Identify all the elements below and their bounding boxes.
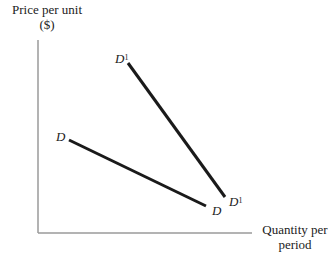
- demand-diagram: Price per unit ($) Quantity per period D…: [0, 0, 336, 256]
- curve-label-text: D: [56, 129, 65, 144]
- x-axis-label-line2: period: [254, 237, 336, 252]
- x-axis-label-line1: Quantity per: [254, 222, 336, 237]
- curve-label-d1-top: D1: [115, 52, 128, 66]
- demand-curve-d: [69, 140, 206, 206]
- y-axis-label-line2: ($): [2, 17, 92, 32]
- curve-label-sup: 1: [238, 196, 242, 205]
- y-axis-label: Price per unit ($): [2, 2, 92, 32]
- curve-label-d-left: D: [56, 130, 65, 144]
- curve-label-text: D: [229, 194, 238, 209]
- curve-label-d-right: D: [212, 204, 221, 218]
- curve-label-d1-bottom: D1: [229, 195, 242, 209]
- curve-label-sup: 1: [124, 53, 128, 62]
- curve-label-text: D: [115, 51, 124, 66]
- x-axis-label: Quantity per period: [254, 222, 336, 252]
- y-axis-label-line1: Price per unit: [2, 2, 92, 17]
- diagram-canvas: [0, 0, 336, 256]
- curve-label-text: D: [212, 203, 221, 218]
